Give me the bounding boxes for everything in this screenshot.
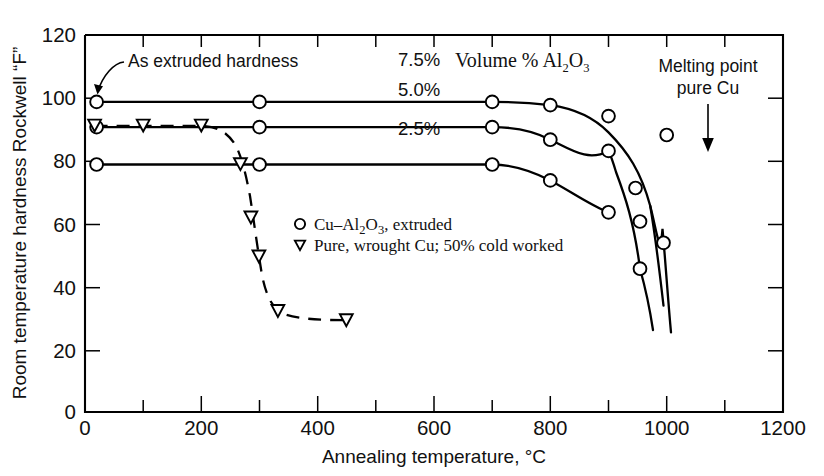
x-tick-label: 200 xyxy=(184,416,218,439)
as-extruded-arrow-head xyxy=(94,84,103,95)
y-axis-title: Room temperature hardness Rockwell “F” xyxy=(9,47,30,400)
volume-label-mid: O xyxy=(569,49,583,71)
legend-triangle-icon xyxy=(295,241,305,251)
x-tick-label: 0 xyxy=(79,416,90,439)
series-2-5-percent-markers xyxy=(90,158,615,219)
y-tick-label: 40 xyxy=(53,276,76,299)
volume-label-sub-2: 3 xyxy=(583,61,589,75)
series-label-2-5-percent: 2.5% xyxy=(398,118,440,139)
legend-1-part-2: O xyxy=(366,215,378,234)
as-extruded-hardness-label: As extruded hardness xyxy=(128,51,298,71)
y-tick-label: 100 xyxy=(42,86,76,109)
bottom-axis-ticks xyxy=(143,396,725,412)
series-pure-cu-line xyxy=(95,126,347,320)
x-tick-label: 1200 xyxy=(760,416,806,439)
volume-label-main: Volume % Al xyxy=(455,49,563,71)
y-tick-label: 80 xyxy=(53,149,76,172)
y-tick-label: 20 xyxy=(53,339,76,362)
melting-point-label-line-1: Melting point xyxy=(658,56,757,76)
series-label-7-5-percent: 7.5% xyxy=(398,49,440,70)
x-tick-label: 1000 xyxy=(644,416,690,439)
volume-percent-alumina-label: Volume % Al2O3 xyxy=(455,49,589,75)
legend-circle-icon xyxy=(295,219,305,229)
top-axis-ticks xyxy=(143,35,725,47)
legend-1-part-1: Cu–Al xyxy=(314,215,360,234)
y-tick-label: 60 xyxy=(53,213,76,236)
series-7-5-percent-tail xyxy=(650,206,663,306)
chart-svg: 0 200 400 600 800 1000 1200 0 20 40 60 8… xyxy=(0,0,824,476)
left-axis-ticks xyxy=(85,98,100,351)
y-tick-labels: 0 20 40 60 80 100 120 xyxy=(42,23,76,423)
legend-1-part-3: , extruded xyxy=(384,215,452,234)
x-axis-title: Annealing temperature, °C xyxy=(322,446,546,467)
y-tick-label: 120 xyxy=(42,23,76,46)
series-2-5-percent-line xyxy=(95,165,609,213)
legend-label-cu-alumina: Cu–Al2O3, extruded xyxy=(314,215,453,237)
x-tick-label: 600 xyxy=(417,416,451,439)
y-tick-label: 0 xyxy=(65,400,76,423)
legend-label-pure-cu: Pure, wrought Cu; 50% cold worked xyxy=(314,236,564,255)
legend: Cu–Al2O3, extruded Pure, wrought Cu; 50%… xyxy=(295,215,564,255)
melting-point-arrow-head xyxy=(702,138,714,152)
x-tick-labels: 0 200 400 600 800 1000 1200 xyxy=(79,416,806,439)
right-axis-ticks xyxy=(768,98,783,351)
series-7-5-percent-line xyxy=(95,102,671,332)
melting-point-label-line-2: pure Cu xyxy=(677,78,739,98)
x-tick-label: 800 xyxy=(533,416,567,439)
chart-figure: 0 200 400 600 800 1000 1200 0 20 40 60 8… xyxy=(0,0,824,476)
series-label-5-percent: 5.0% xyxy=(398,79,440,100)
x-tick-label: 400 xyxy=(301,416,335,439)
